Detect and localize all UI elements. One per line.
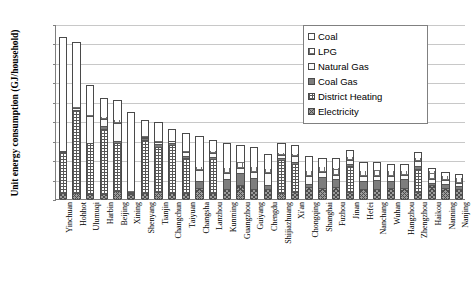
legend-swatch-icon xyxy=(308,108,315,115)
bar-stack[interactable] xyxy=(332,158,340,199)
bar-segment-lpg xyxy=(237,162,243,169)
bar-segment-coal xyxy=(374,163,380,170)
bar-stack[interactable] xyxy=(59,37,67,199)
bar-segment-elec xyxy=(73,194,79,200)
bar-column[interactable] xyxy=(373,162,381,199)
bar-stack[interactable] xyxy=(72,42,80,200)
bar-stack[interactable] xyxy=(441,172,449,199)
bar-stack[interactable] xyxy=(305,156,313,199)
x-tick-label: Taiyuan xyxy=(188,202,197,228)
legend-item-lpg[interactable]: LPG xyxy=(308,44,423,59)
bar-column[interactable] xyxy=(236,145,244,199)
bar-column[interactable] xyxy=(277,143,285,199)
bar-stack[interactable] xyxy=(346,150,354,199)
legend-item-dheat[interactable]: District Heating xyxy=(308,89,423,104)
bar-stack[interactable] xyxy=(182,133,190,199)
bar-column[interactable] xyxy=(264,154,272,199)
bar-segment-coal xyxy=(333,159,339,168)
bar-column[interactable] xyxy=(209,140,217,199)
bar-segment-coal xyxy=(114,101,120,120)
legend-item-elec[interactable]: Electricity xyxy=(308,104,423,119)
bar-stack[interactable] xyxy=(277,143,285,199)
bar-column[interactable] xyxy=(291,145,299,199)
bar-column[interactable] xyxy=(359,162,367,199)
bar-stack[interactable] xyxy=(250,147,258,199)
bar-column[interactable] xyxy=(332,158,340,199)
bar-segment-coal xyxy=(237,146,243,163)
bar-column[interactable] xyxy=(195,136,203,199)
bar-stack[interactable] xyxy=(236,145,244,199)
legend-swatch-icon xyxy=(308,63,315,70)
bar-segment-dheat xyxy=(292,165,298,193)
legend-item-label: Natural Gas xyxy=(318,62,369,72)
legend-swatch-icon xyxy=(308,93,315,100)
bar-column[interactable] xyxy=(414,152,422,199)
legend-item-coalgas[interactable]: Coal Gas xyxy=(308,74,423,89)
bar-segment-elec xyxy=(142,194,148,200)
bar-segment-elec xyxy=(224,190,230,200)
bar-segment-coal xyxy=(183,134,189,151)
bar-stack[interactable] xyxy=(154,122,162,199)
bar-stack[interactable] xyxy=(318,158,326,199)
bar-stack[interactable] xyxy=(86,85,94,199)
bar-stack[interactable] xyxy=(400,164,408,199)
bar-stack[interactable] xyxy=(100,98,108,199)
bar-column[interactable] xyxy=(387,164,395,199)
bar-column[interactable] xyxy=(305,156,313,199)
bar-stack[interactable] xyxy=(414,152,422,199)
bar-column[interactable] xyxy=(168,129,176,199)
bar-stack[interactable] xyxy=(113,100,121,199)
x-tick-label: Hefei xyxy=(366,202,375,220)
bar-column[interactable] xyxy=(182,133,190,199)
legend-item-coal[interactable]: Coal xyxy=(308,29,423,44)
bar-column[interactable] xyxy=(223,143,231,199)
bar-segment-elec xyxy=(251,190,257,200)
bar-segment-coal xyxy=(360,163,366,171)
bar-stack[interactable] xyxy=(127,112,135,200)
bar-column[interactable] xyxy=(346,150,354,199)
bar-stack[interactable] xyxy=(373,162,381,199)
bar-column[interactable] xyxy=(428,168,436,199)
x-tick-label: Beijing xyxy=(120,202,129,226)
x-tick-label: Chengdu xyxy=(270,202,279,231)
bar-stack[interactable] xyxy=(359,162,367,199)
bar-segment-dheat xyxy=(155,148,161,193)
x-tick-label: Jinan xyxy=(352,202,361,219)
bar-stack[interactable] xyxy=(223,143,231,199)
x-tick-label: Haikou xyxy=(434,202,443,226)
bar-column[interactable] xyxy=(86,85,94,199)
bar-segment-coalgas xyxy=(224,180,230,190)
bar-stack[interactable] xyxy=(291,145,299,199)
bar-stack[interactable] xyxy=(195,136,203,199)
bar-segment-elec xyxy=(429,186,435,200)
bar-segment-dheat xyxy=(169,146,175,195)
bar-stack[interactable] xyxy=(264,154,272,199)
bar-column[interactable] xyxy=(113,100,121,199)
bar-stack[interactable] xyxy=(387,164,395,199)
bar-column[interactable] xyxy=(250,147,258,199)
stacked-bar-chart: Unit energy consumption (GJ/household) 0… xyxy=(0,0,471,288)
bar-column[interactable] xyxy=(127,112,135,200)
bar-stack[interactable] xyxy=(168,129,176,199)
x-tick-label: Wuhan xyxy=(393,202,402,225)
bar-column[interactable] xyxy=(455,174,463,199)
bar-stack[interactable] xyxy=(209,140,217,199)
legend-item-ngas[interactable]: Natural Gas xyxy=(308,59,423,74)
bar-column[interactable] xyxy=(59,37,67,199)
bar-column[interactable] xyxy=(100,98,108,199)
bar-stack[interactable] xyxy=(455,174,463,199)
bar-column[interactable] xyxy=(141,120,149,199)
x-tick-label: Changsha xyxy=(202,202,211,234)
bar-stack[interactable] xyxy=(428,168,436,199)
bar-stack[interactable] xyxy=(141,120,149,199)
bar-column[interactable] xyxy=(441,172,449,199)
bar-segment-dheat xyxy=(347,167,353,193)
x-tick-label: Zhengzhou xyxy=(420,202,429,238)
bar-column[interactable] xyxy=(154,122,162,199)
x-tick-label: Guiyang xyxy=(256,202,265,230)
bar-segment-coalgas xyxy=(374,181,380,190)
bar-column[interactable] xyxy=(318,158,326,199)
bar-segment-coal xyxy=(319,159,325,167)
bar-column[interactable] xyxy=(400,164,408,199)
bar-column[interactable] xyxy=(72,42,80,200)
